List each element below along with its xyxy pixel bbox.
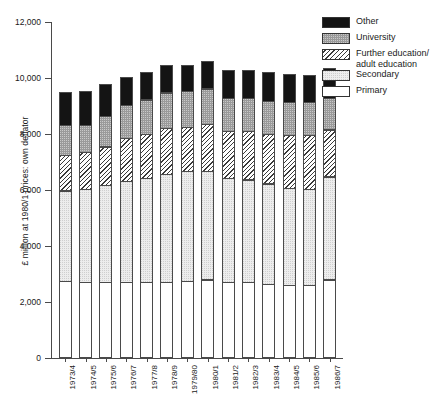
x-tick (187, 358, 188, 362)
x-tick-label: 1985/6 (312, 365, 321, 389)
legend-item[interactable]: University (322, 32, 440, 47)
bar-segment-other (140, 72, 153, 100)
bar-segment-secondary (99, 185, 112, 283)
x-tick (269, 358, 270, 362)
x-tick-label: 1981/2 (231, 365, 240, 389)
bar[interactable] (140, 70, 153, 358)
bar-segment-further (303, 135, 316, 190)
bar-segment-other (242, 70, 255, 99)
bar-segment-primary (120, 282, 133, 358)
bar-segment-university (160, 93, 173, 129)
bar[interactable] (242, 67, 255, 358)
x-tick-label: 1986/7 (333, 365, 342, 389)
bar[interactable] (59, 89, 72, 358)
y-tick-label: 0 (36, 353, 41, 363)
x-tick-label: 1982/3 (251, 365, 260, 389)
bar[interactable] (201, 58, 214, 358)
bar-segment-further (120, 138, 133, 181)
bar[interactable] (120, 74, 133, 358)
bar-segment-other (283, 74, 296, 103)
bar-segment-secondary (59, 191, 72, 282)
bar-segment-university (120, 105, 133, 139)
bar-segment-further (201, 124, 214, 172)
legend-swatch (322, 86, 350, 97)
bar-segment-other (79, 91, 92, 126)
bar-segment-other (201, 61, 214, 89)
bar-segment-university (303, 102, 316, 136)
bar-segment-primary (323, 280, 336, 358)
bar-segment-university (242, 98, 255, 132)
x-tick (126, 358, 127, 362)
bar-segment-further (79, 152, 92, 190)
bar-segment-primary (262, 284, 275, 358)
legend-label: Further education/ adult education (356, 48, 429, 69)
bar-segment-university (283, 102, 296, 136)
plot-area: 02,0004,0006,0008,00010,00012,000 1973/4… (52, 22, 343, 358)
bar[interactable] (262, 70, 275, 358)
bar-segment-other (222, 70, 235, 99)
bar[interactable] (222, 67, 235, 358)
x-tick-label: 1974/5 (89, 365, 98, 389)
bar-segment-primary (59, 281, 72, 358)
x-tick (147, 358, 148, 362)
y-tick-label: 8,000 (20, 129, 41, 139)
bar-segment-other (262, 72, 275, 101)
bar[interactable] (181, 63, 194, 358)
bar-segment-secondary (242, 180, 255, 284)
bar-segment-further (181, 127, 194, 172)
bar-segment-university (262, 101, 275, 135)
x-tick-label: 1973/4 (68, 365, 77, 389)
legend-label: University (356, 32, 396, 43)
bar-segment-primary (181, 281, 194, 358)
bar-segment-primary (283, 285, 296, 358)
legend-swatch (322, 70, 350, 81)
bar-segment-university (79, 125, 92, 153)
legend-swatch (322, 49, 350, 60)
x-tick (248, 358, 249, 362)
bar-segment-secondary (262, 184, 275, 285)
bar[interactable] (160, 63, 173, 358)
x-tick-label: 1976/7 (129, 365, 138, 389)
legend-item[interactable]: Primary (322, 85, 440, 100)
x-tick (167, 358, 168, 362)
legend-item[interactable]: Secondary (322, 69, 440, 84)
bar[interactable] (283, 71, 296, 358)
bar-segment-primary (79, 282, 92, 358)
bar[interactable] (303, 72, 316, 358)
bar-segment-further (283, 135, 296, 188)
bar[interactable] (79, 88, 92, 358)
y-tick-label: 10,000 (15, 73, 41, 83)
x-tick-label: 1979/80 (190, 365, 199, 394)
bar[interactable] (99, 81, 112, 358)
bar-segment-secondary (303, 189, 316, 286)
x-tick (86, 358, 87, 362)
y-tick (45, 246, 52, 247)
legend-label: Other (356, 16, 379, 27)
bar-segment-primary (242, 282, 255, 358)
bar-segment-primary (222, 282, 235, 358)
bar-segment-university (59, 125, 72, 156)
bar-segment-further (222, 131, 235, 179)
bar-segment-secondary (323, 177, 336, 281)
y-tick (45, 190, 52, 191)
legend-label: Secondary (356, 69, 399, 80)
bar-segment-further (59, 155, 72, 191)
bar-segment-university (323, 98, 336, 130)
x-tick (228, 358, 229, 362)
legend-item[interactable]: Other (322, 16, 440, 31)
y-tick-label: 4,000 (20, 241, 41, 251)
bar[interactable] (323, 65, 336, 358)
x-axis-line (51, 358, 343, 359)
bar-segment-further (262, 134, 275, 184)
x-tick-label: 1980/1 (211, 365, 220, 389)
bar-segment-secondary (181, 171, 194, 282)
bar-segment-other (160, 65, 173, 93)
bar-segment-secondary (283, 188, 296, 286)
x-tick (309, 358, 310, 362)
bar-segment-further (323, 130, 336, 178)
bar-segment-university (140, 100, 153, 135)
bar-segment-university (99, 116, 112, 147)
x-tick (208, 358, 209, 362)
bar-segment-secondary (222, 178, 235, 283)
legend-item[interactable]: Further education/ adult education (322, 48, 440, 68)
